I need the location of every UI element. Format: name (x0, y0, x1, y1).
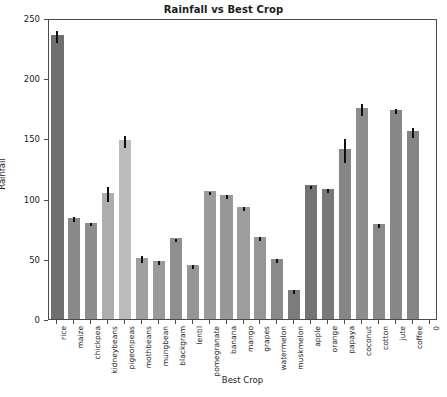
error-bar (395, 109, 397, 114)
plot-area (48, 19, 437, 320)
error-bar (192, 265, 194, 269)
x-tick-mark (90, 320, 91, 324)
x-tick-mark-extra (429, 320, 430, 324)
x-tick-mark (310, 320, 311, 324)
x-tick-mark (327, 320, 328, 324)
x-tick-mark (395, 320, 396, 324)
x-tick-mark (56, 320, 57, 324)
x-tick-mark (192, 320, 193, 324)
x-tick-label: papaya (347, 326, 356, 354)
bar (170, 238, 182, 319)
bar (237, 207, 249, 319)
x-tick-label: coffee (415, 326, 424, 349)
x-tick-label: grapes (262, 326, 271, 352)
bar (153, 261, 165, 319)
error-bar (243, 207, 245, 211)
x-tick-mark (412, 320, 413, 324)
x-tick-label: mango (246, 326, 255, 352)
y-axis-label: Rainfall (0, 158, 7, 190)
error-bar (310, 186, 312, 190)
error-bar (412, 128, 414, 138)
bar (407, 131, 419, 319)
x-axis-label: Best Crop (48, 375, 437, 385)
error-bar (327, 189, 329, 193)
x-tick-label: blackgram (178, 326, 187, 366)
x-tick-label: mungbean (161, 326, 170, 366)
error-bar (90, 223, 92, 227)
bar (85, 223, 97, 319)
x-tick-mark (259, 320, 260, 324)
bar (271, 259, 283, 319)
error-bar (124, 136, 126, 148)
bar (51, 35, 63, 319)
error-bar (378, 224, 380, 228)
error-bar (259, 237, 261, 241)
bar (68, 218, 80, 319)
y-axis: Rainfall 050100150200250 (0, 19, 48, 320)
x-tick-label: kidneybeans (110, 326, 119, 374)
bar (356, 108, 368, 319)
x-tick-label: lentil (195, 326, 204, 345)
x-tick-mark (378, 320, 379, 324)
error-bar (344, 139, 346, 163)
error-bar (293, 290, 295, 294)
error-bar (73, 217, 75, 222)
error-bar (276, 259, 278, 263)
x-tick-label: pigeonpeas (127, 326, 136, 369)
error-bar (107, 187, 109, 201)
error-bar (209, 192, 211, 196)
bar (288, 290, 300, 319)
bar (305, 185, 317, 319)
x-tick-mark (107, 320, 108, 324)
bar (220, 195, 232, 319)
x-tick-label: maize (76, 326, 85, 349)
x-tick-label: cotton (381, 326, 390, 350)
x-tick-mark (209, 320, 210, 324)
bars-layer (49, 20, 436, 319)
bar (390, 110, 402, 319)
bar (254, 237, 266, 319)
y-tick-label: 250 (24, 14, 40, 24)
y-tick-label: 150 (24, 134, 40, 144)
x-tick-label: pomegranate (212, 326, 221, 377)
x-tick-label-extra: 0 (432, 326, 441, 331)
bar (373, 224, 385, 319)
x-tick-label: mothbeans (144, 326, 153, 368)
error-bar (226, 195, 228, 200)
bar (322, 189, 334, 319)
y-tick-label: 200 (24, 74, 40, 84)
x-tick-label: rice (59, 326, 68, 340)
bar (339, 149, 351, 319)
x-tick-mark (243, 320, 244, 324)
x-tick-mark (344, 320, 345, 324)
bar (204, 191, 216, 319)
chart-title: Rainfall vs Best Crop (0, 4, 447, 15)
x-tick-mark (158, 320, 159, 324)
y-tick-label: 50 (29, 255, 40, 265)
x-tick-label: muskmelon (296, 326, 305, 370)
error-bar (56, 31, 58, 43)
error-bar (175, 239, 177, 243)
x-tick-label: banana (229, 326, 238, 354)
x-tick-mark (226, 320, 227, 324)
x-tick-label: watermelon (279, 326, 288, 371)
x-tick-label: chickpea (93, 326, 102, 359)
chart-figure: Rainfall vs Best Crop Rainfall 050100150… (0, 0, 447, 397)
x-tick-mark (73, 320, 74, 324)
bar (187, 265, 199, 319)
x-tick-mark (175, 320, 176, 324)
x-tick-mark (141, 320, 142, 324)
x-tick-label: coconut (364, 326, 373, 356)
x-tick-mark (293, 320, 294, 324)
error-bar (141, 256, 143, 263)
bar (119, 140, 131, 319)
y-tick-label: 100 (24, 195, 40, 205)
error-bar (361, 104, 363, 116)
y-tick-label: 0 (35, 315, 40, 325)
x-tick-mark (361, 320, 362, 324)
x-tick-label: jute (398, 326, 407, 340)
error-bar (158, 261, 160, 265)
x-tick-label: orange (330, 326, 339, 352)
bar (136, 258, 148, 319)
bar (102, 193, 114, 319)
